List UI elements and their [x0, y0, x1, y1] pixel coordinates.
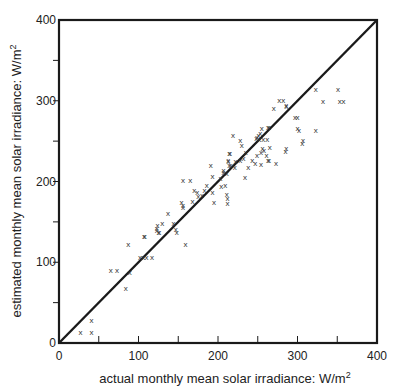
- x-marker: x: [223, 181, 227, 190]
- y-axis-tick-labels: 0100200300400: [36, 13, 56, 350]
- x-marker: x: [181, 176, 185, 185]
- x-marker: x: [209, 161, 213, 170]
- x-marker: x: [210, 188, 214, 197]
- x-marker: x: [226, 199, 230, 208]
- x-marker: x: [342, 97, 346, 106]
- y-tick-label: 400: [36, 13, 56, 27]
- x-marker: x: [266, 123, 270, 132]
- x-marker: x: [261, 144, 265, 153]
- x-marker: x: [314, 126, 318, 135]
- x-marker: x: [231, 131, 235, 140]
- x-marker: x: [257, 135, 261, 144]
- y-tick-label: 0: [49, 336, 56, 350]
- x-marker: x: [296, 113, 300, 122]
- x-marker: x: [128, 268, 132, 277]
- data-markers: xxxxxxxxxxxxxxxxxxxxxxxxxxxxxxxxxxxxxxxx…: [78, 85, 345, 337]
- x-marker: x: [259, 160, 263, 169]
- x-axis-tick-labels: 0100200300400: [56, 349, 388, 363]
- x-marker: x: [160, 219, 164, 228]
- x-marker: x: [126, 240, 130, 249]
- x-marker: x: [243, 173, 247, 182]
- x-tick-label: 300: [287, 349, 307, 363]
- x-marker: x: [212, 198, 216, 207]
- x-marker: x: [255, 151, 259, 160]
- x-marker: x: [109, 266, 113, 275]
- x-marker: x: [90, 316, 94, 325]
- x-marker: x: [150, 253, 154, 262]
- x-marker: x: [183, 240, 187, 249]
- x-marker: x: [274, 159, 278, 168]
- x-marker: x: [115, 266, 119, 275]
- x-marker: x: [272, 104, 276, 113]
- x-marker: x: [188, 176, 192, 185]
- x-marker: x: [191, 197, 195, 206]
- x-marker: x: [124, 284, 128, 293]
- x-marker: x: [336, 85, 340, 94]
- x-marker: x: [233, 163, 237, 172]
- x-marker: x: [143, 232, 147, 241]
- y-tick-label: 200: [36, 175, 56, 189]
- x-marker: x: [300, 139, 304, 148]
- x-marker: x: [222, 168, 226, 177]
- x-marker: x: [210, 172, 214, 181]
- x-marker: x: [181, 201, 185, 210]
- x-marker: x: [166, 209, 170, 218]
- x-marker: x: [144, 253, 148, 262]
- x-tick-label: 400: [367, 349, 387, 363]
- x-marker: x: [253, 159, 257, 168]
- x-marker: x: [297, 126, 301, 135]
- x-marker: x: [157, 228, 161, 237]
- y-axis-title: estimated monthly mean solar irradiance:…: [8, 44, 24, 317]
- y-tick-label: 100: [36, 255, 56, 269]
- x-marker: x: [284, 147, 288, 156]
- x-marker: x: [314, 85, 318, 94]
- x-marker: x: [244, 148, 248, 157]
- x-marker: x: [321, 97, 325, 106]
- x-marker: x: [266, 156, 270, 165]
- x-marker: x: [268, 143, 272, 152]
- x-marker: x: [78, 328, 82, 337]
- x-axis-title: actual monthly mean solar irradiance: W/…: [99, 370, 350, 386]
- x-marker: x: [200, 191, 204, 200]
- x-marker: x: [284, 102, 288, 111]
- scatter-chart: 0100200300400 0100200300400 xxxxxxxxxxxx…: [0, 0, 396, 391]
- x-tick-label: 0: [56, 349, 63, 363]
- x-tick-label: 200: [208, 349, 228, 363]
- x-tick-label: 100: [128, 349, 148, 363]
- y-tick-label: 300: [36, 94, 56, 108]
- x-marker: x: [90, 328, 94, 337]
- x-marker: x: [175, 228, 179, 237]
